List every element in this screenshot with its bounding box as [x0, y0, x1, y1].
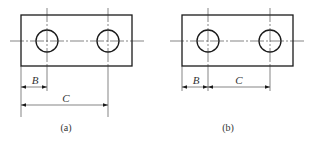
- plate-outline: [21, 15, 132, 66]
- dimension-c-label: C: [62, 92, 70, 104]
- figure-b: B C (b): [170, 8, 305, 134]
- plate-outline: [182, 15, 293, 66]
- figure-b-caption: (b): [222, 122, 234, 134]
- dimension-c-label: C: [235, 74, 243, 86]
- dimension-b-label: B: [32, 74, 39, 86]
- dimension-b-label: B: [193, 74, 200, 86]
- drawing-canvas: B C (a) B C (b): [0, 0, 311, 145]
- figure-a-caption: (a): [60, 122, 71, 134]
- figure-a: B C (a): [10, 8, 144, 134]
